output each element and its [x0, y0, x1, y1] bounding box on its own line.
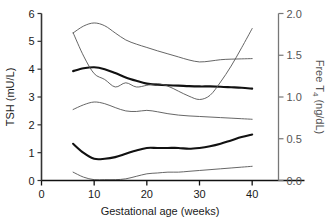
- y-tick-label-4: 4: [28, 63, 34, 75]
- y-tick-label-1: 1: [28, 147, 34, 159]
- x-tick-label-0: 0: [38, 188, 44, 200]
- y2-axis-title: Free T4 (ng/dL): [311, 60, 326, 135]
- y2-tick-label-1: 0.5: [287, 133, 302, 145]
- series-5: [73, 135, 252, 160]
- y-tick-label-3: 3: [28, 91, 34, 103]
- x-tick-label-2: 20: [141, 188, 153, 200]
- y2-tick-label-0: 0.0: [287, 175, 302, 187]
- chart-svg: 01234560102030400.00.51.01.52.0Gestation…: [0, 0, 329, 223]
- y-tick-label-0: 0: [28, 175, 34, 187]
- series-6: [73, 166, 252, 180]
- chart-container: 01234560102030400.00.51.01.52.0Gestation…: [0, 0, 329, 223]
- series-line-2: [73, 67, 252, 88]
- series-4: [73, 29, 252, 100]
- y2-title-unit: (ng/dL): [314, 96, 326, 134]
- data-series-layer: [73, 23, 252, 180]
- x-tick-label-1: 10: [88, 188, 100, 200]
- y2-tick-label-2: 1.0: [287, 91, 302, 103]
- x-tick-label-3: 30: [193, 188, 205, 200]
- series-2: [73, 67, 252, 88]
- series-line-3: [73, 102, 252, 119]
- y-tick-label-2: 2: [28, 119, 34, 131]
- axis-labels-layer: 01234560102030400.00.51.01.52.0Gestation…: [4, 8, 326, 218]
- series-line-1: [73, 23, 252, 62]
- series-line-6: [73, 166, 252, 180]
- x-axis-title: Gestational age (weeks): [101, 205, 220, 217]
- y2-title-main: Free T: [314, 60, 326, 92]
- x-tick-label-4: 40: [246, 188, 258, 200]
- y-tick-label-5: 5: [28, 35, 34, 47]
- series-1: [73, 23, 252, 62]
- y-axis-title: TSH (mU/L): [4, 68, 16, 127]
- series-line-5: [73, 135, 252, 160]
- series-line-4: [73, 29, 252, 100]
- axes-layer: [38, 14, 305, 186]
- y2-tick-label-3: 1.5: [287, 49, 302, 61]
- y-tick-label-6: 6: [28, 8, 34, 20]
- y2-tick-label-4: 2.0: [287, 8, 302, 20]
- series-3: [73, 102, 252, 119]
